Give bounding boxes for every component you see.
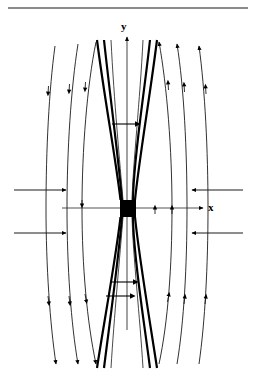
fieldline-L3 [82, 42, 96, 364]
fieldline-L1 [46, 46, 56, 364]
fieldline-R1-midmark-upper [206, 86, 207, 94]
fieldline-R3 [159, 42, 172, 364]
fieldline-R3-midmark-upper [168, 82, 169, 90]
separatrix-upper-left-outer [97, 40, 121, 200]
inflow-arrows-right [192, 190, 243, 233]
separatrix-lower-left-inner [104, 217, 122, 368]
y-axis-label: y [121, 21, 127, 32]
fieldline-L2-midmark-upper [69, 84, 70, 92]
fieldline-L2 [67, 44, 78, 364]
field-line-diagram [0, 0, 258, 382]
field-lines-left [46, 42, 96, 364]
inflow-arrows-left [14, 190, 66, 233]
fieldline-R1 [199, 46, 208, 364]
current-sheet-box [120, 200, 136, 217]
separatrix-upper-left-inner [104, 40, 122, 200]
current-sheet-group [120, 200, 136, 217]
field-lines-right [159, 42, 208, 364]
fieldline-L3-midmark-upper [85, 82, 86, 90]
separatrix-upper-right-outer [135, 40, 157, 200]
fieldline-R2-midmark-upper [184, 84, 185, 92]
figure-root: y x [0, 0, 258, 382]
fieldline-L1-midmark-upper [48, 86, 49, 94]
x-axis-label: x [208, 202, 214, 213]
fieldline-R2 [177, 44, 187, 364]
